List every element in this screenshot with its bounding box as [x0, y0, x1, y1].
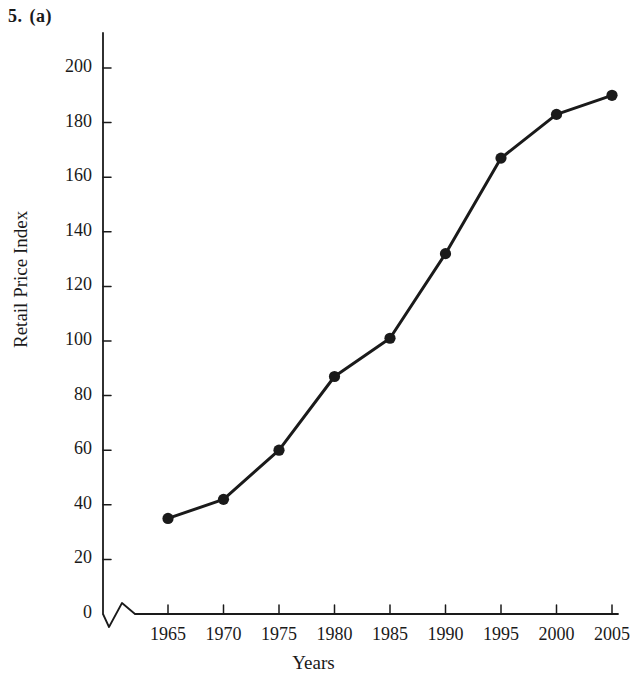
tick-marks-group	[103, 68, 612, 614]
series-line-retail-price-index	[168, 95, 612, 518]
data-point-marker	[162, 513, 173, 524]
figure-part: (a)	[30, 6, 53, 26]
x-axis-title: Years	[0, 652, 627, 674]
figure-number: 5.	[8, 6, 23, 26]
y-tick-label: 140	[40, 220, 92, 241]
y-tick-label: 180	[40, 111, 92, 132]
x-tick-label: 1980	[305, 624, 365, 645]
x-tick-label: 1995	[471, 624, 531, 645]
axis-break-zigzag	[103, 603, 135, 627]
y-tick-label: 20	[40, 547, 92, 568]
data-point-marker	[606, 90, 617, 101]
y-tick-label: 60	[40, 438, 92, 459]
x-tick-label: 1985	[360, 624, 420, 645]
y-tick-label: 160	[40, 165, 92, 186]
x-tick-label: 2005	[582, 624, 634, 645]
y-tick-label: 120	[40, 274, 92, 295]
y-axis-title: Retail Price Index	[10, 258, 44, 280]
data-point-marker	[329, 371, 340, 382]
axes-group	[103, 33, 618, 627]
data-point-marker	[273, 445, 284, 456]
data-point-marker	[440, 248, 451, 259]
data-point-marker	[495, 152, 506, 163]
x-tick-label: 1970	[194, 624, 254, 645]
y-tick-label: 80	[40, 384, 92, 405]
y-tick-label: 40	[40, 493, 92, 514]
x-tick-label: 2000	[527, 624, 587, 645]
figure-label: 5.(a)	[8, 6, 52, 27]
data-series-group	[162, 90, 617, 524]
y-tick-label: 0	[40, 602, 92, 623]
data-point-marker	[384, 333, 395, 344]
y-tick-label: 200	[40, 56, 92, 77]
y-tick-label: 100	[40, 329, 92, 350]
x-tick-label: 1990	[416, 624, 476, 645]
data-point-marker	[218, 494, 229, 505]
x-tick-label: 1965	[138, 624, 198, 645]
data-point-marker	[551, 109, 562, 120]
x-tick-label: 1975	[249, 624, 309, 645]
